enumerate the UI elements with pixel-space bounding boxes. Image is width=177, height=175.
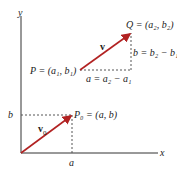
b-component-label: b = b₂ − b₁ [133, 48, 177, 58]
y-axis-label: y [18, 8, 22, 18]
a-component-label: a = a₂ − a₁ [86, 74, 131, 84]
vector-v [80, 34, 130, 70]
point-p0-label: P₀ = (a, b) [74, 110, 117, 120]
y-tick-b: b [8, 110, 13, 120]
point-p-label: P = (a₁, b₁) [30, 66, 76, 76]
x-axis-label: x [160, 148, 164, 158]
vector-v0-label: v0 [38, 124, 47, 137]
vector-v-label: v [100, 42, 105, 52]
x-tick-a: a [69, 158, 74, 168]
point-q-label: Q = (a₂, b₂) [126, 20, 174, 30]
